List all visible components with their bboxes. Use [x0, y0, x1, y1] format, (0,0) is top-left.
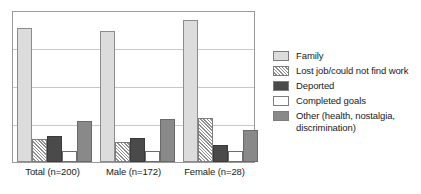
x-axis-labels: Total (n=200) Male (n=172) Female (n=28)	[12, 166, 255, 177]
other-swatch	[273, 111, 289, 121]
legend-label-lost-job: Lost job/could not find work	[296, 65, 408, 77]
legend-label-family: Family	[296, 50, 323, 62]
completed-goals-swatch	[273, 96, 289, 106]
deported-swatch	[273, 81, 289, 91]
family-swatch	[273, 51, 289, 61]
x-axis-label-male: Male (n=172)	[93, 166, 174, 177]
bar-male-deported	[130, 138, 145, 162]
bar-total-deported	[47, 136, 62, 162]
plot-area	[12, 11, 255, 163]
bar-groups	[13, 12, 254, 162]
legend-label-completed-goals: Completed goals	[296, 95, 366, 107]
legend-item-lost-job: Lost job/could not find work	[273, 65, 419, 77]
bar-male-other	[160, 119, 175, 162]
bar-female-deported	[213, 145, 228, 162]
bar-female-family	[183, 20, 198, 162]
bar-total-other	[77, 121, 92, 162]
x-axis-label-total: Total (n=200)	[12, 166, 93, 177]
x-axis-label-female: Female (n=28)	[174, 166, 255, 177]
bar-male-lost-job	[115, 142, 130, 162]
legend-item-deported: Deported	[273, 80, 419, 92]
bar-male-family	[100, 31, 115, 162]
bar-total-completed	[62, 151, 77, 162]
bar-male-completed	[145, 151, 160, 162]
bar-group-total	[13, 12, 96, 162]
bar-total-family	[17, 28, 32, 162]
legend-label-other: Other (health, nostalgia,discrimination)	[296, 110, 395, 133]
bar-female-completed	[228, 151, 243, 162]
bar-group-female	[179, 12, 262, 162]
legend-item-other: Other (health, nostalgia,discrimination)	[273, 110, 419, 133]
bar-group-male	[96, 12, 179, 162]
bar-female-other	[243, 130, 258, 162]
legend-label-other-line1: Other (health, nostalgia,	[296, 110, 395, 121]
bar-total-lost-job	[32, 139, 47, 162]
bar-female-lost-job	[198, 118, 213, 162]
bar-chart-figure: Total (n=200) Male (n=172) Female (n=28)…	[0, 0, 421, 194]
legend-label-other-line2: discrimination)	[296, 122, 356, 133]
lost-job-swatch	[273, 66, 289, 76]
legend-item-completed-goals: Completed goals	[273, 95, 419, 107]
legend-item-family: Family	[273, 50, 419, 62]
legend-label-deported: Deported	[296, 80, 334, 92]
legend: Family Lost job/could not find work Depo…	[273, 50, 419, 137]
